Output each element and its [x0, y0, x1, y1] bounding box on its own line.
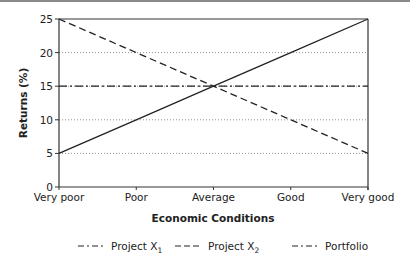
legend-label-2: Project X2 [208, 240, 259, 255]
chart: 0510152025Very poorPoorAverageGoodVery g… [0, 0, 410, 271]
y-axis-title: Returns (%) [17, 68, 29, 138]
x-tick-label: Very poor [34, 191, 85, 203]
legend-subscript: 2 [254, 246, 259, 255]
legend-subscript: 1 [157, 246, 162, 255]
y-tick-label: 5 [46, 147, 53, 159]
series-lines [59, 19, 368, 153]
legend-label-1: Project X1 [111, 240, 162, 255]
grid-lines [59, 53, 368, 154]
y-tick-label: 10 [40, 114, 53, 126]
x-axis-title: Economic Conditions [152, 212, 275, 224]
x-tick-label: Poor [125, 191, 149, 203]
y-tick-label: 25 [40, 13, 53, 25]
y-tick-label: 15 [40, 80, 53, 92]
y-tick-label: 20 [40, 47, 53, 59]
x-tick-label: Very good [342, 191, 395, 203]
x-tick-label: Average [192, 191, 235, 203]
legend-label-3: Portfolio [325, 240, 368, 252]
tick-labels: 0510152025Very poorPoorAverageGoodVery g… [34, 13, 395, 203]
x-tick-label: Good [277, 191, 305, 203]
legend: Project X1Project X2Portfolio [78, 240, 368, 255]
axes [55, 19, 368, 190]
